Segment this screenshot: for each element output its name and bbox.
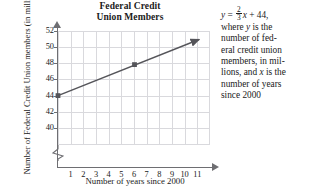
caption-line-8: since 2000 bbox=[221, 90, 315, 101]
federal-credit-union-figure: Federal Credit Union Members Number of F… bbox=[0, 0, 317, 191]
data-series-line bbox=[0, 0, 215, 191]
caption-line-4: eral credit union bbox=[221, 45, 315, 56]
equation-caption: y = 2 3 x + 44, where y is the number of… bbox=[221, 6, 315, 102]
equation-fraction: 2 3 bbox=[236, 6, 242, 22]
data-point-marker bbox=[56, 93, 61, 98]
equation-fraction-numerator: 2 bbox=[236, 6, 242, 13]
equation-x: x bbox=[243, 10, 247, 20]
line-chart: Federal Credit Union Members Number of F… bbox=[0, 0, 215, 191]
caption-line-6: lions, and x is the bbox=[221, 67, 315, 78]
data-point-marker bbox=[132, 62, 137, 67]
caption-text: is the bbox=[250, 22, 272, 32]
caption-line-3: number of fed- bbox=[221, 33, 315, 44]
equation-y: y bbox=[221, 10, 225, 20]
equation-constant: + 44, bbox=[249, 10, 268, 20]
equation-equals: = bbox=[227, 10, 232, 20]
caption-line-7: number of years bbox=[221, 79, 315, 90]
caption-text: lions, and bbox=[221, 67, 259, 77]
caption-line-5: members, in mil- bbox=[221, 56, 315, 67]
caption-line-2: where y is the bbox=[221, 22, 315, 33]
equation-line: y = 2 3 x + 44, bbox=[221, 6, 315, 22]
equation-fraction-denominator: 3 bbox=[236, 13, 242, 21]
caption-text: is the bbox=[264, 67, 286, 77]
caption-text: where bbox=[221, 22, 246, 32]
